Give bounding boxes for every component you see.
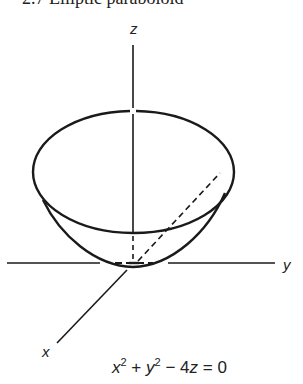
eq-minus: − (165, 358, 175, 377)
paraboloid-right-side (133, 193, 225, 267)
eq-coefficient: 4 (180, 358, 189, 377)
paraboloid-equation: x2 + y2 − 4z = 0 (112, 358, 227, 378)
eq-z: z (190, 358, 199, 377)
y-axis-label: y (282, 256, 292, 273)
eq-y: y (146, 358, 155, 377)
paraboloid-figure: 2.7 Elliptic paraboloid z y x x2 + y2 − … (0, 0, 303, 384)
eq-x-exponent: 2 (121, 356, 127, 368)
eq-y-exponent: 2 (155, 356, 161, 368)
x-axis-label: x (41, 343, 50, 360)
eq-plus: + (131, 358, 141, 377)
z-axis-label: z (129, 20, 138, 37)
hidden-dashed-line (138, 173, 220, 261)
paraboloid-diagram: z y x (0, 0, 303, 384)
x-axis (57, 270, 127, 343)
eq-equals: = (203, 358, 213, 377)
eq-zero: 0 (217, 358, 226, 377)
eq-x: x (112, 358, 121, 377)
